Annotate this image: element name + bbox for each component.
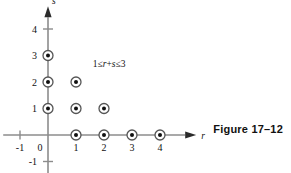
y-axis-tick-label: 4 xyxy=(32,24,37,35)
annotation-layer: 1≤r+s≤3 xyxy=(93,59,126,69)
x-axis-tick-label: 4 xyxy=(158,142,163,153)
y-axis-name: s xyxy=(52,0,56,6)
x-axis-tick-label: 1 xyxy=(74,142,79,153)
y-axis-tick-label: 2 xyxy=(32,77,37,88)
figure-container: -101234-11234 rs 1≤r+s≤3 Figure 17–12 xyxy=(0,0,291,173)
data-point xyxy=(43,104,53,114)
figure-caption: Figure 17–12 xyxy=(213,123,283,135)
data-point xyxy=(71,104,81,114)
data-point xyxy=(71,77,81,87)
data-point xyxy=(43,77,53,87)
data-point xyxy=(43,51,53,61)
axis-name-layer: rs xyxy=(52,0,205,141)
x-axis-tick-label: 0 xyxy=(38,142,43,153)
data-point xyxy=(71,130,81,140)
data-point xyxy=(99,104,109,114)
tick-label-layer: -101234-11234 xyxy=(16,24,163,168)
y-axis-arrow-icon xyxy=(44,6,51,17)
y-axis-tick-label: -1 xyxy=(29,156,37,167)
inequality-annotation: 1≤r+s≤3 xyxy=(93,59,126,69)
data-point xyxy=(127,130,137,140)
data-point xyxy=(99,130,109,140)
x-axis-arrow-icon xyxy=(185,131,196,138)
x-axis-tick-label: 2 xyxy=(102,142,107,153)
data-point xyxy=(155,130,165,140)
x-axis-tick-label: -1 xyxy=(16,142,24,153)
lattice-point-plot: -101234-11234 rs 1≤r+s≤3 xyxy=(0,0,291,173)
y-axis-tick-label: 1 xyxy=(32,103,37,114)
x-axis-name: r xyxy=(201,131,205,141)
y-axis-tick-label: 3 xyxy=(32,50,37,61)
x-axis-tick-label: 3 xyxy=(130,142,135,153)
